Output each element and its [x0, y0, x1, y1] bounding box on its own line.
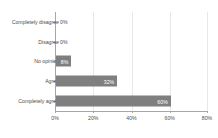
- bar-row: Completely agree 60%: [0, 91, 218, 111]
- bar-row: Completely disagree 0%: [0, 12, 218, 32]
- bar-value-label: 32%: [104, 78, 114, 84]
- category-label: Completely disagree: [7, 19, 59, 25]
- category-label: No opinion: [7, 58, 59, 64]
- x-tick-mark: [55, 111, 56, 113]
- bar-container: 60%: [56, 96, 171, 107]
- category-label: Completely agree: [7, 98, 59, 104]
- bar: [56, 96, 171, 107]
- bar-value-label: 60%: [157, 98, 167, 104]
- bar-value-label: 0%: [60, 19, 68, 25]
- x-tick-label: 40%: [126, 115, 136, 121]
- bar-container: 8%: [56, 56, 71, 67]
- category-label: Agree: [7, 78, 59, 84]
- bar-value-label: 0%: [60, 39, 68, 45]
- x-tick-mark: [132, 111, 133, 113]
- bar-row: Agree 32%: [0, 71, 218, 91]
- bar-row: Disagree 0%: [0, 32, 218, 52]
- x-tick-mark: [93, 111, 94, 113]
- x-tick-mark: [170, 111, 171, 113]
- x-tick-label: 20%: [88, 115, 98, 121]
- x-tick-mark: [207, 111, 208, 113]
- x-tick-label: 80%: [202, 115, 212, 121]
- x-tick-label: 0%: [51, 115, 59, 121]
- bar-chart: Completely disagree 0% Disagree 0% No op…: [0, 0, 218, 138]
- bar-row: No opinion 8%: [0, 52, 218, 72]
- x-tick-label: 60%: [165, 115, 175, 121]
- category-label: Disagree: [7, 39, 59, 45]
- bar-value-label: 8%: [61, 58, 69, 64]
- bar-container: 32%: [56, 76, 117, 87]
